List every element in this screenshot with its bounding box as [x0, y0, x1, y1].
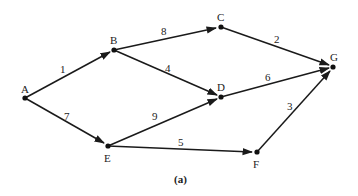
edge-d-g: [221, 68, 329, 97]
node-label-f: F: [253, 158, 259, 170]
node-label-e: E: [104, 152, 111, 164]
node-label-c: C: [217, 11, 224, 23]
node-c: [218, 24, 223, 29]
weight-a-e: 7: [64, 110, 70, 122]
node-g: [330, 64, 335, 69]
weight-b-d: 4: [165, 62, 171, 74]
directed-weighted-graph: 1 7 8 4 2 6 9 5 3 A B C D E F G (a): [0, 0, 358, 196]
node-label-g: G: [330, 51, 338, 63]
node-a: [22, 95, 27, 100]
weight-d-g: 6: [265, 71, 271, 83]
node-label-a: A: [21, 83, 29, 95]
node-d: [218, 94, 223, 99]
node-label-b: B: [110, 34, 117, 46]
node-label-d: D: [217, 81, 225, 93]
edge-f-g: [257, 71, 330, 152]
weight-b-c: 8: [161, 25, 167, 37]
edge-e-d: [108, 99, 217, 146]
weight-c-g: 2: [274, 33, 280, 45]
edge-a-b: [25, 52, 110, 98]
node-f: [254, 149, 259, 154]
edges: [25, 27, 330, 152]
weight-f-g: 3: [287, 100, 293, 112]
weight-a-b: 1: [60, 63, 66, 75]
node-e: [105, 143, 110, 148]
node-b: [111, 47, 116, 52]
weight-e-d: 9: [152, 110, 158, 122]
figure-caption: (a): [174, 173, 187, 186]
weight-e-f: 5: [178, 136, 184, 148]
